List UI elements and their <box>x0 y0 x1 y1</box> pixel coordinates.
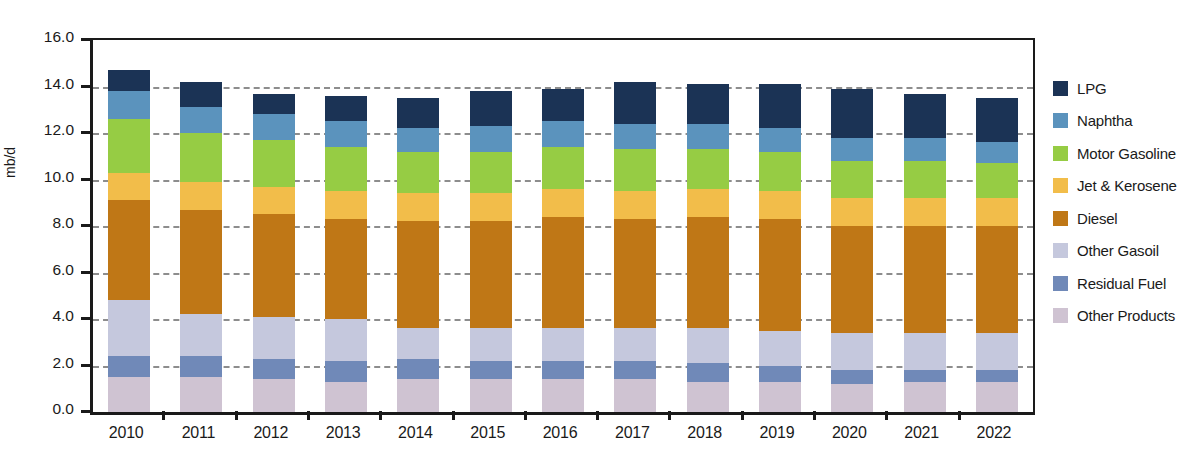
bar-segment[interactable] <box>180 182 222 210</box>
bar-segment[interactable] <box>614 219 656 328</box>
bar-segment[interactable] <box>397 193 439 221</box>
bar-segment[interactable] <box>687 217 729 329</box>
legend-item-residual-fuel[interactable]: Residual Fuel <box>1053 275 1198 291</box>
bar-segment[interactable] <box>397 98 439 128</box>
bar-segment[interactable] <box>325 219 367 319</box>
bar-segment[interactable] <box>759 128 801 151</box>
bar-segment[interactable] <box>108 70 150 91</box>
legend-item-other-products[interactable]: Other Products <box>1053 308 1198 324</box>
bar-segment[interactable] <box>397 128 439 151</box>
bar-segment[interactable] <box>687 84 729 124</box>
stacked-bar[interactable] <box>397 98 439 412</box>
bar-segment[interactable] <box>614 379 656 412</box>
bar-segment[interactable] <box>470 193 512 221</box>
bar-segment[interactable] <box>253 187 295 215</box>
bar-segment[interactable] <box>831 138 873 161</box>
bar-segment[interactable] <box>397 359 439 380</box>
bar-segment[interactable] <box>542 89 584 122</box>
bar-segment[interactable] <box>759 191 801 219</box>
bar-segment[interactable] <box>976 382 1018 412</box>
stacked-bar[interactable] <box>180 82 222 412</box>
bar-segment[interactable] <box>542 121 584 147</box>
bar-segment[interactable] <box>470 152 512 194</box>
bar-segment[interactable] <box>831 161 873 198</box>
bar-segment[interactable] <box>325 191 367 219</box>
bar-segment[interactable] <box>904 138 946 161</box>
bar-segment[interactable] <box>976 98 1018 142</box>
bar-segment[interactable] <box>614 361 656 380</box>
bar-segment[interactable] <box>180 356 222 377</box>
stacked-bar[interactable] <box>614 82 656 412</box>
bar-segment[interactable] <box>976 333 1018 370</box>
bar-segment[interactable] <box>759 382 801 412</box>
legend-item-other-gasoil[interactable]: Other Gasoil <box>1053 243 1198 259</box>
bar-segment[interactable] <box>831 370 873 384</box>
bar-segment[interactable] <box>542 189 584 217</box>
bar-segment[interactable] <box>614 328 656 361</box>
bar-segment[interactable] <box>325 121 367 147</box>
bar-segment[interactable] <box>904 226 946 333</box>
bar-segment[interactable] <box>542 147 584 189</box>
bar-segment[interactable] <box>108 91 150 119</box>
bar-segment[interactable] <box>325 361 367 382</box>
bar-segment[interactable] <box>470 126 512 152</box>
legend-item-diesel[interactable]: Diesel <box>1053 210 1198 226</box>
bar-segment[interactable] <box>976 370 1018 382</box>
bar-segment[interactable] <box>180 314 222 356</box>
bar-segment[interactable] <box>687 189 729 217</box>
bar-segment[interactable] <box>831 89 873 138</box>
bar-segment[interactable] <box>831 198 873 226</box>
bar-segment[interactable] <box>253 359 295 380</box>
bar-segment[interactable] <box>904 198 946 226</box>
stacked-bar[interactable] <box>687 84 729 412</box>
bar-segment[interactable] <box>253 114 295 140</box>
bar-segment[interactable] <box>542 379 584 412</box>
bar-segment[interactable] <box>904 94 946 138</box>
stacked-bar[interactable] <box>542 89 584 412</box>
stacked-bar[interactable] <box>108 70 150 412</box>
bar-segment[interactable] <box>253 94 295 115</box>
bar-segment[interactable] <box>180 82 222 108</box>
bar-segment[interactable] <box>759 366 801 382</box>
bar-segment[interactable] <box>325 382 367 412</box>
bar-segment[interactable] <box>397 328 439 358</box>
bar-segment[interactable] <box>108 377 150 412</box>
bar-segment[interactable] <box>180 210 222 315</box>
bar-segment[interactable] <box>614 82 656 124</box>
legend-item-motor-gasoline[interactable]: Motor Gasoline <box>1053 145 1198 161</box>
stacked-bar[interactable] <box>470 91 512 412</box>
bar-segment[interactable] <box>831 333 873 370</box>
stacked-bar[interactable] <box>253 94 295 412</box>
bar-segment[interactable] <box>831 226 873 333</box>
bar-segment[interactable] <box>687 328 729 363</box>
bar-segment[interactable] <box>325 96 367 122</box>
bar-segment[interactable] <box>253 379 295 412</box>
bar-segment[interactable] <box>759 152 801 192</box>
bar-segment[interactable] <box>470 379 512 412</box>
bar-segment[interactable] <box>614 124 656 150</box>
bar-segment[interactable] <box>759 84 801 128</box>
bar-segment[interactable] <box>904 333 946 370</box>
bar-segment[interactable] <box>687 363 729 382</box>
stacked-bar[interactable] <box>976 98 1018 412</box>
legend-item-jet-kerosene[interactable]: Jet & Kerosene <box>1053 178 1198 194</box>
bar-segment[interactable] <box>976 163 1018 198</box>
bar-segment[interactable] <box>614 191 656 219</box>
bar-segment[interactable] <box>470 221 512 328</box>
bar-segment[interactable] <box>253 214 295 316</box>
bar-segment[interactable] <box>687 124 729 150</box>
stacked-bar[interactable] <box>759 84 801 412</box>
bar-segment[interactable] <box>180 377 222 412</box>
bar-segment[interactable] <box>180 133 222 182</box>
stacked-bar[interactable] <box>831 89 873 412</box>
bar-segment[interactable] <box>470 91 512 126</box>
legend-item-lpg[interactable]: LPG <box>1053 80 1198 96</box>
bar-segment[interactable] <box>325 147 367 191</box>
bar-segment[interactable] <box>542 361 584 380</box>
bar-segment[interactable] <box>687 149 729 189</box>
bar-segment[interactable] <box>253 140 295 187</box>
bar-segment[interactable] <box>759 331 801 366</box>
bar-segment[interactable] <box>108 173 150 201</box>
bar-segment[interactable] <box>470 361 512 380</box>
bar-segment[interactable] <box>108 356 150 377</box>
